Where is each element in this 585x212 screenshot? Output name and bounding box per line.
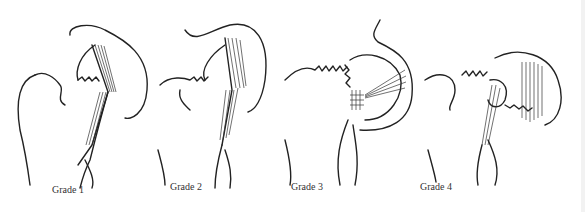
panel-1-label: Grade 1: [52, 184, 84, 195]
page-edge: [581, 0, 585, 212]
panel-3-drawing: [285, 20, 412, 185]
panel-1-drawing: [18, 25, 147, 188]
panel-3-label: Grade 3: [291, 181, 323, 192]
panel-4-drawing: [425, 52, 561, 185]
figure: Grade 1 Grade 2 Grade 3 Grade 4: [0, 0, 585, 212]
panel-2-label: Grade 2: [170, 181, 202, 192]
panel-4-label: Grade 4: [420, 181, 452, 192]
panel-2-drawing: [158, 24, 266, 188]
